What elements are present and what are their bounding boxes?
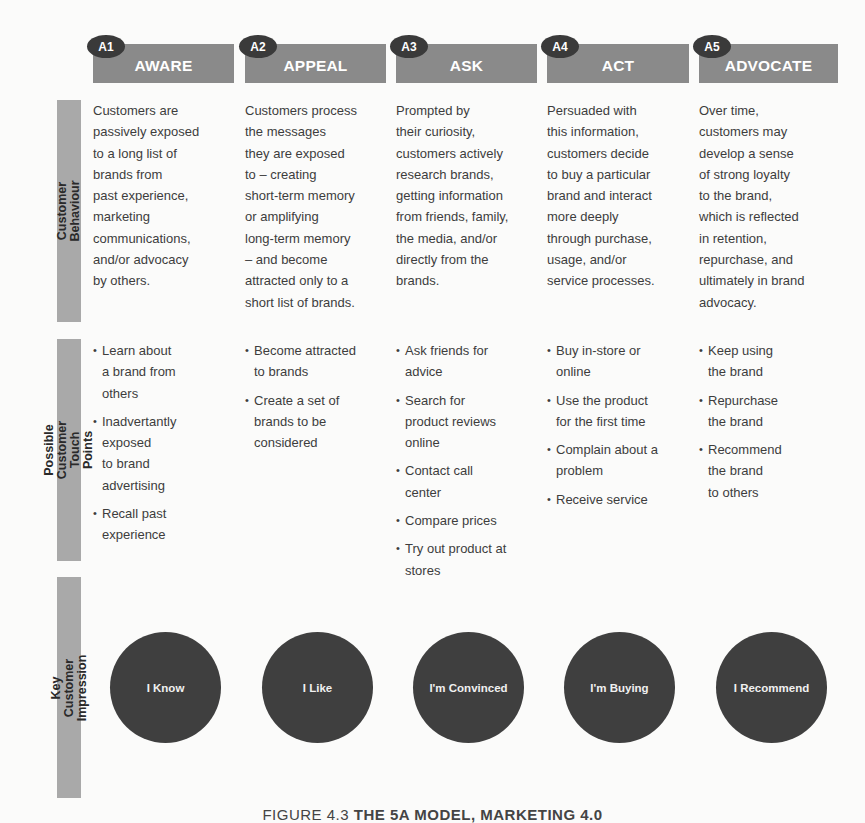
behaviour-act: Persuaded with this information, custome… <box>547 100 692 292</box>
touch-point-item: Compare prices <box>396 510 541 531</box>
touch-points-act: Buy in-store or online Use the product f… <box>547 340 692 517</box>
touch-point-item: Buy in-store or online <box>547 340 692 383</box>
touch-point-item: Become attracted to brands <box>245 340 390 383</box>
impression-circle-like: I Like <box>262 632 373 743</box>
behaviour-aware: Customers are passively exposed to a lon… <box>93 100 238 292</box>
figure-number: FIGURE 4.3 <box>262 806 353 823</box>
row-label-text: Possible Customer Touch Points <box>43 421 95 479</box>
touch-points-appeal: Become attracted to brands Create a set … <box>245 340 390 460</box>
behaviour-ask: Prompted by their curiosity, customers a… <box>396 100 541 292</box>
touch-points-ask: Ask friends for advice Search for produc… <box>396 340 541 588</box>
figure-title: THE 5A MODEL, MARKETING 4.0 <box>354 806 603 823</box>
touch-point-item: Use the product for the first time <box>547 390 692 433</box>
touch-point-item: Contact call center <box>396 460 541 503</box>
row-label-text: Key Customer Impression <box>50 654 89 721</box>
touch-point-item: Inadvertantly exposed to brand advertisi… <box>93 411 238 496</box>
stage-badge-a5: A5 <box>693 35 731 58</box>
touch-point-item: Keep using the brand <box>699 340 844 383</box>
row-label-key-impression: Key Customer Impression <box>57 577 81 798</box>
row-label-customer-behaviour: Customer Behaviour <box>57 100 81 322</box>
impression-circle-convinced: I'm Convinced <box>413 632 524 743</box>
stage-badge-a3: A3 <box>390 35 428 58</box>
stage-badge-a4: A4 <box>541 35 579 58</box>
touch-point-item: Complain about a problem <box>547 439 692 482</box>
touch-point-item: Create a set of brands to be considered <box>245 390 390 454</box>
figure-caption: FIGURE 4.3 THE 5A MODEL, MARKETING 4.0 <box>0 806 865 823</box>
row-label-text: Customer Behaviour <box>56 180 82 241</box>
touch-point-item: Search for product reviews online <box>396 390 541 454</box>
touch-points-aware: Learn about a brand from others Inadvert… <box>93 340 238 553</box>
behaviour-appeal: Customers process the messages they are … <box>245 100 390 313</box>
touch-point-item: Learn about a brand from others <box>93 340 238 404</box>
row-label-touch-points: Possible Customer Touch Points <box>57 339 81 561</box>
impression-circle-know: I Know <box>110 632 221 743</box>
touch-point-item: Recall past experience <box>93 503 238 546</box>
touch-point-item: Recommend the brand to others <box>699 439 844 503</box>
touch-point-item: Try out product at stores <box>396 538 541 581</box>
stage-badge-a1: A1 <box>87 35 125 58</box>
impression-circle-buying: I'm Buying <box>564 632 675 743</box>
touch-points-advocate: Keep using the brand Repurchase the bran… <box>699 340 844 510</box>
behaviour-advocate: Over time, customers may develop a sense… <box>699 100 844 313</box>
touch-point-item: Receive service <box>547 489 692 510</box>
touch-point-item: Repurchase the brand <box>699 390 844 433</box>
stage-badge-a2: A2 <box>239 35 277 58</box>
touch-point-item: Ask friends for advice <box>396 340 541 383</box>
impression-circle-recommend: I Recommend <box>716 632 827 743</box>
